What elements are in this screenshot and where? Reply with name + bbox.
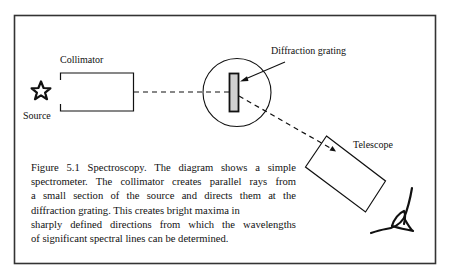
caption-line: diffraction grating. This creates bright… [31,204,296,218]
collimator-tube [61,73,134,111]
diffraction-grating [230,74,239,112]
diffraction-grating-label: Diffraction grating [271,46,346,56]
caption-line: a small section of the source and direct… [31,189,296,203]
figure-caption: Figure 5.1 Spectroscopy. The diagram sho… [31,161,296,246]
caption-line: spectrometer. The collimator creates par… [31,175,296,189]
source-label: Source [23,111,51,121]
caption-line: of significant spectral lines can be det… [31,232,296,246]
collimator-label: Collimator [60,55,103,65]
star-icon [32,82,51,100]
caption-line: Figure 5.1 Spectroscopy. The diagram sho… [31,161,296,175]
telescope-label: Telescope [353,140,393,150]
grating-pointer-arrow [240,62,285,82]
diffracted-ray-arrowhead [330,146,337,152]
caption-line: sharply defined directions from which th… [31,218,296,232]
